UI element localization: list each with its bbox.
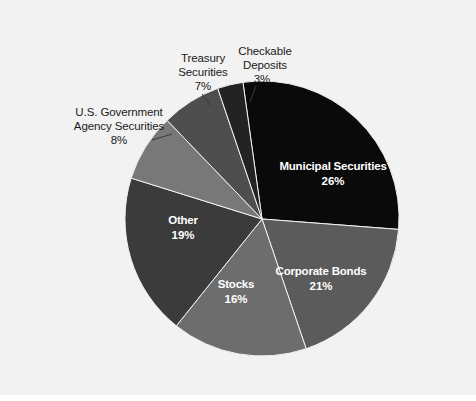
pie-label-other-text: Other	[168, 214, 198, 226]
pie-label-other-value: 19%	[171, 229, 194, 241]
pie-callout-us-government-agency-securities-line1: U.S. Government	[75, 106, 163, 118]
pie-callout-us-government-agency-securities-line2: Agency Securities	[74, 120, 165, 132]
pie-label-stocks-value: 16%	[224, 293, 247, 305]
pie-callout-checkable-deposits-value: 3%	[254, 73, 270, 85]
pie-label-stocks-text: Stocks	[218, 278, 255, 290]
pie-callout-checkable-deposits-line1: Checkable	[238, 45, 291, 57]
pie-callout-checkable-deposits-line2: Deposits	[243, 59, 287, 71]
pie-callout-us-government-agency-securities-value: 8%	[111, 134, 127, 146]
pie-label-municipal-securities-value: 26%	[321, 175, 344, 187]
pie-chart-figure: Municipal Securities 26% Corporate Bonds…	[0, 0, 476, 401]
pie-chart-canvas: Municipal Securities 26% Corporate Bonds…	[0, 0, 476, 401]
pie-callout-treasury-securities-line2: Securities	[178, 66, 228, 78]
pie-label-municipal-securities-text: Municipal Securities	[279, 160, 386, 172]
pie-callout-treasury-securities-value: 7%	[195, 80, 211, 92]
pie-label-corporate-bonds-text: Corporate Bonds	[276, 265, 367, 277]
pie-label-corporate-bonds-value: 21%	[309, 280, 332, 292]
pie-callout-treasury-securities-line1: Treasury	[181, 52, 225, 64]
